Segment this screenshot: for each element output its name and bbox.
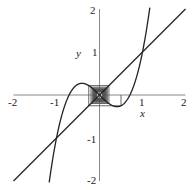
x-tick-neg1: -1 [50, 96, 59, 108]
x-tick-2: 2 [181, 96, 187, 108]
x-tick-neg2: -2 [8, 96, 17, 108]
x-axis-label: x [139, 107, 145, 119]
y-axis-label: y [75, 47, 81, 59]
plot-canvas: -2 -1 1 2 2 1 -1 -2 y x [0, 0, 193, 190]
y-tick-2: 2 [90, 4, 96, 16]
y-tick-1: 1 [92, 46, 98, 58]
y-tick-neg2: -2 [87, 174, 96, 186]
cobweb-plot: -2 -1 1 2 2 1 -1 -2 y x [0, 0, 193, 190]
y-tick-neg1: -1 [87, 133, 96, 145]
